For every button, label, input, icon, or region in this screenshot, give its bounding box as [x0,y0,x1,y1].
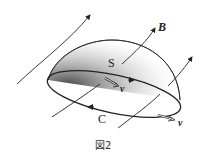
curve-label-c: C [98,113,106,125]
diagram-svg [0,0,204,160]
hemisphere-surface-icon [48,40,180,100]
velocity-label-1: v [120,84,124,94]
figure-2: B S C v v 図2 [0,0,204,160]
velocity-label-2: v [178,118,182,128]
figure-caption: 図2 [95,141,111,151]
field-line-icon [118,94,160,128]
field-label-b: B [158,21,166,33]
surface-label-s: S [108,57,115,69]
field-line-icon [52,84,100,117]
